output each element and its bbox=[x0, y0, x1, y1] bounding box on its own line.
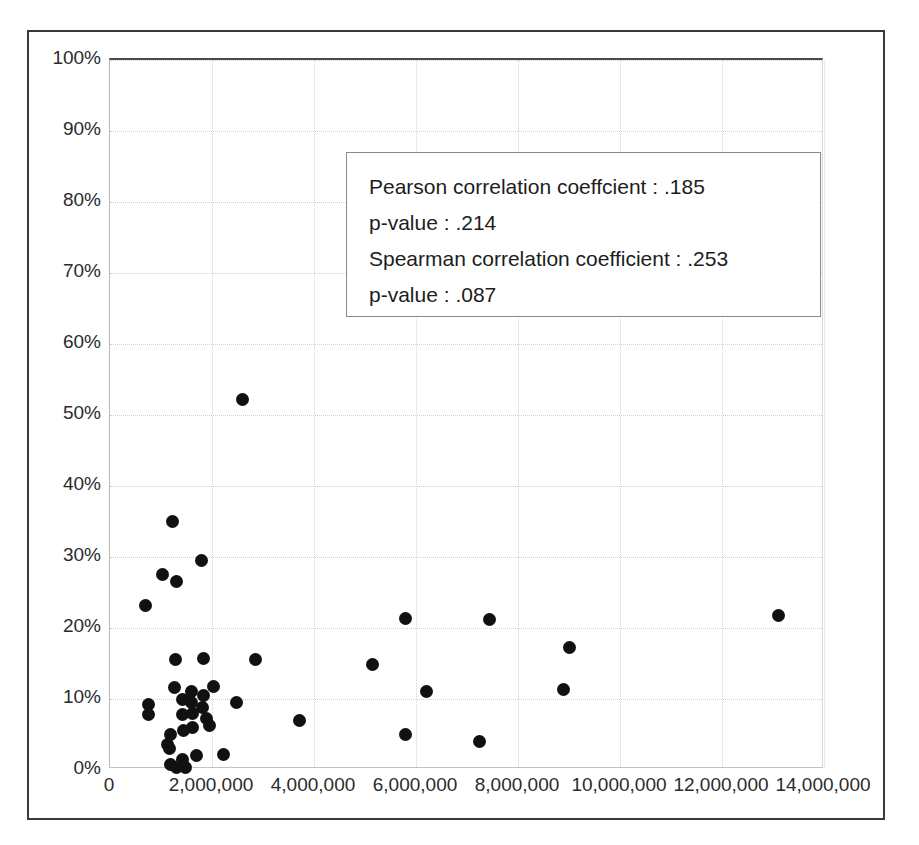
scatter-point bbox=[399, 728, 412, 741]
scatter-point bbox=[195, 554, 208, 567]
scatter-point bbox=[166, 515, 179, 528]
scatter-point bbox=[217, 748, 230, 761]
x-axis-tick-label: 6,000,000 bbox=[373, 774, 458, 796]
scatter-point bbox=[420, 685, 433, 698]
stats-line-pearson-p: p-value : .214 bbox=[369, 205, 820, 241]
y-axis-tick-label: 80% bbox=[63, 189, 101, 211]
y-axis-tick-label: 50% bbox=[63, 402, 101, 424]
scatter-point bbox=[563, 641, 576, 654]
scatter-point bbox=[236, 393, 249, 406]
scatter-point bbox=[177, 724, 190, 737]
gridline-horizontal bbox=[110, 131, 822, 132]
scatter-point bbox=[168, 681, 181, 694]
gridline-horizontal bbox=[110, 699, 822, 700]
gridline-vertical bbox=[314, 60, 315, 767]
y-axis-tick-label: 60% bbox=[63, 331, 101, 353]
chart-frame: 0%10%20%30%40%50%60%70%80%90%100% 02,000… bbox=[27, 30, 885, 820]
y-axis-tick-label: 10% bbox=[63, 686, 101, 708]
scatter-point bbox=[772, 609, 785, 622]
scatter-point bbox=[142, 708, 155, 721]
gridline-horizontal bbox=[110, 60, 822, 61]
y-axis-tick-label: 100% bbox=[52, 47, 101, 69]
stats-line-spearman-rho: Spearman correlation coefficient : .253 bbox=[369, 241, 820, 277]
x-axis-tick-label: 0 bbox=[104, 774, 115, 796]
gridline-horizontal bbox=[110, 415, 822, 416]
scatter-point bbox=[179, 761, 192, 774]
y-axis-tick-label: 20% bbox=[63, 615, 101, 637]
scatter-point bbox=[399, 612, 412, 625]
scatter-point bbox=[230, 696, 243, 709]
scatter-point bbox=[557, 683, 570, 696]
scatter-point bbox=[366, 658, 379, 671]
scatter-point bbox=[156, 568, 169, 581]
scatter-point bbox=[163, 742, 176, 755]
x-axis-tick-label: 10,000,000 bbox=[571, 774, 666, 796]
scatter-point bbox=[169, 653, 182, 666]
scatter-point bbox=[190, 749, 203, 762]
y-axis-tick-label: 70% bbox=[63, 260, 101, 282]
x-axis-tick-label: 8,000,000 bbox=[475, 774, 560, 796]
gridline-horizontal bbox=[110, 628, 822, 629]
scatter-point bbox=[203, 719, 216, 732]
stats-line-pearson-r: Pearson correlation coeffcient : .185 bbox=[369, 169, 820, 205]
x-axis-tick-label: 4,000,000 bbox=[271, 774, 356, 796]
y-axis-tick-label: 90% bbox=[63, 118, 101, 140]
y-axis-tick-label: 40% bbox=[63, 473, 101, 495]
x-axis-tick-label: 14,000,000 bbox=[775, 774, 870, 796]
scatter-point bbox=[197, 652, 210, 665]
y-axis-tick-label: 30% bbox=[63, 544, 101, 566]
gridline-horizontal bbox=[110, 486, 822, 487]
statistics-annotation-box: Pearson correlation coeffcient : .185 p-… bbox=[346, 152, 821, 317]
x-axis-tick-label: 2,000,000 bbox=[169, 774, 254, 796]
scatter-point bbox=[176, 708, 189, 721]
y-axis-tick-label: 0% bbox=[74, 757, 101, 779]
scatter-point bbox=[139, 599, 152, 612]
stats-line-spearman-p: p-value : .087 bbox=[369, 277, 820, 313]
scatter-point bbox=[473, 735, 486, 748]
scatter-point bbox=[483, 613, 496, 626]
gridline-vertical bbox=[212, 60, 213, 767]
scatter-point bbox=[170, 575, 183, 588]
y-axis-labels: 0%10%20%30%40%50%60%70%80%90%100% bbox=[29, 58, 101, 768]
x-axis-tick-label: 12,000,000 bbox=[673, 774, 768, 796]
gridline-horizontal bbox=[110, 557, 822, 558]
scatter-point bbox=[249, 653, 262, 666]
x-axis-labels: 02,000,0004,000,0006,000,0008,000,00010,… bbox=[109, 774, 823, 814]
gridline-vertical bbox=[824, 60, 825, 767]
gridline-horizontal bbox=[110, 344, 822, 345]
scatter-point bbox=[293, 714, 306, 727]
